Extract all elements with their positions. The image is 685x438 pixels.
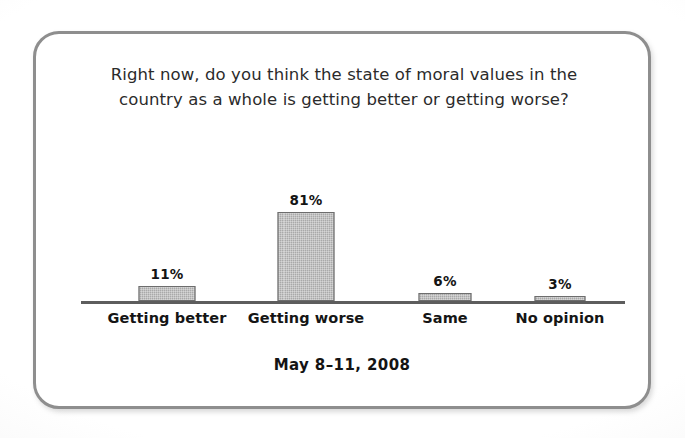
bar-wrap: 81%	[246, 141, 366, 301]
plot-area: 11% 81% 6% 3%	[81, 144, 641, 304]
bar-column-same: 6%	[385, 141, 505, 301]
bar-column-no-opinion: 3%	[500, 141, 620, 301]
category-axis-labels: Getting better Getting worse Same No opi…	[81, 310, 641, 334]
category-label-getting-worse: Getting worse	[226, 310, 386, 326]
bar-same	[419, 293, 472, 301]
bar-column-getting-better: 11%	[107, 141, 227, 301]
category-label-no-opinion: No opinion	[480, 310, 640, 326]
chart-card: Right now, do you think the state of mor…	[33, 31, 651, 409]
bar-value-label-no-opinion: 3%	[548, 276, 571, 292]
chart-title: Right now, do you think the state of mor…	[68, 62, 620, 112]
bar-getting-worse	[278, 212, 335, 301]
bar-wrap: 6%	[385, 141, 505, 301]
bar-getting-better	[139, 286, 196, 301]
bar-value-label-getting-worse: 81%	[290, 192, 323, 208]
bar-wrap: 11%	[107, 141, 227, 301]
poll-date-footer: May 8–11, 2008	[36, 356, 648, 374]
x-axis-baseline	[81, 301, 625, 304]
chart-title-line-1: Right now, do you think the state of mor…	[111, 65, 578, 84]
bar-wrap: 3%	[500, 141, 620, 301]
bar-column-getting-worse: 81%	[246, 141, 366, 301]
chart-title-line-2: country as a whole is getting better or …	[68, 87, 620, 112]
category-label-getting-better: Getting better	[87, 310, 247, 326]
poll-chart-page: Right now, do you think the state of mor…	[0, 0, 685, 438]
bar-value-label-getting-better: 11%	[151, 266, 184, 282]
bar-value-label-same: 6%	[433, 273, 456, 289]
